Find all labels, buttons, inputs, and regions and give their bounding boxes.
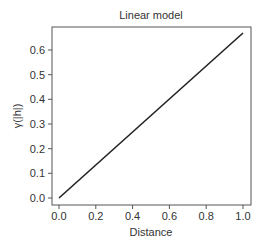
x-tick-label: 0.4 (125, 210, 140, 222)
linear-model-line (59, 33, 243, 198)
y-tick-label: 0.4 (30, 93, 45, 105)
y-tick-label: 0.1 (30, 167, 45, 179)
y-tick-label: 0.6 (30, 44, 45, 56)
x-axis (59, 205, 243, 209)
x-tick-label: 0.8 (199, 210, 214, 222)
y-tick-label: 0.0 (30, 192, 45, 204)
x-tick-label: 0.0 (51, 210, 66, 222)
x-axis-label: Distance (130, 226, 173, 238)
chart-title: Linear model (119, 9, 183, 21)
y-axis-label: γ(|h|) (11, 104, 23, 129)
x-tick-label: 0.2 (88, 210, 103, 222)
y-tick-label: 0.2 (30, 143, 45, 155)
y-axis (48, 50, 52, 198)
x-tick-label: 0.6 (162, 210, 177, 222)
y-tick-label: 0.3 (30, 118, 45, 130)
x-tick-label: 1.0 (235, 210, 250, 222)
y-tick-label: 0.5 (30, 69, 45, 81)
chart: Linear model 0.0 0.1 0.2 0.3 0.4 0.5 0.6… (0, 0, 264, 251)
